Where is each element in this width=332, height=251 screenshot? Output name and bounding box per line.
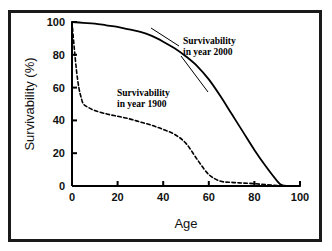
chart-svg: 020406080100 020406080100 Age Survivabil…	[0, 0, 332, 251]
y-tick-label: 0	[59, 180, 65, 192]
y-axis-tick-labels: 020406080100	[47, 16, 65, 192]
annotation-2000-line2: in year 2000	[183, 47, 233, 57]
y-tick-label: 100	[47, 16, 65, 28]
x-tick-label: 60	[203, 191, 215, 203]
x-tick-label: 80	[248, 191, 260, 203]
y-tick-label: 40	[53, 114, 65, 126]
y-tick-label: 80	[53, 49, 65, 61]
x-tick-label: 40	[157, 191, 169, 203]
x-axis-title: Age	[174, 216, 197, 231]
annotation-1900: Survivability in year 1900	[117, 88, 170, 109]
x-tick-label: 20	[111, 191, 123, 203]
x-axis-tick-labels: 020406080100	[69, 191, 309, 203]
y-axis-title: Survivability (%)	[22, 57, 37, 150]
x-tick-label: 100	[291, 191, 309, 203]
annotation-2000: Survivability in year 2000	[183, 36, 236, 57]
y-tick-label: 20	[53, 147, 65, 159]
y-tick-label: 60	[53, 82, 65, 94]
annotation-2000-line1: Survivability	[183, 36, 236, 46]
x-tick-label: 0	[69, 191, 75, 203]
annotation-1900-line1: Survivability	[117, 88, 170, 98]
annotation-1900-line2: in year 1900	[117, 99, 167, 109]
figure-container: 020406080100 020406080100 Age Survivabil…	[0, 0, 332, 251]
